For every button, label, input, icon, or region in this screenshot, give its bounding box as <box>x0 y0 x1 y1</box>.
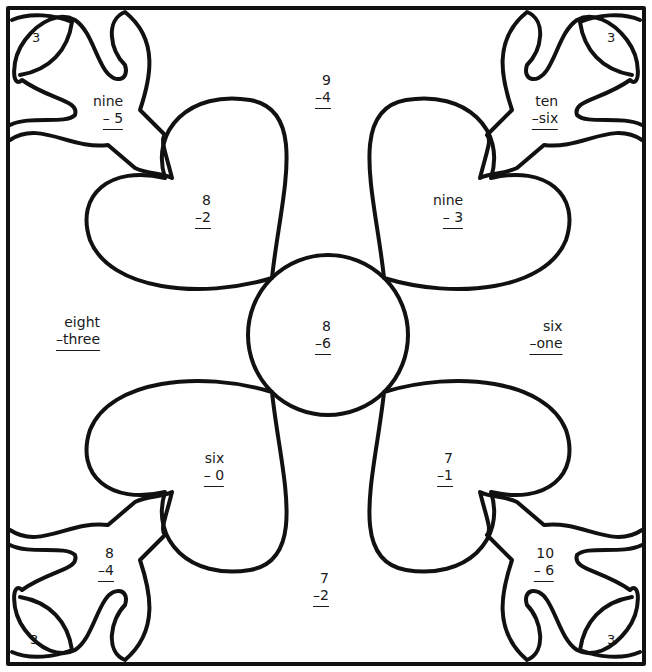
heart-bottom-left <box>87 381 287 572</box>
problem-center: 8 –6 <box>315 318 331 355</box>
problem-corner-top-left: nine – 5 <box>93 93 123 130</box>
subtrahend: –1 <box>437 467 453 487</box>
minuend: six <box>529 318 562 335</box>
minuend: 8 <box>315 318 331 335</box>
heart-bottom-right <box>369 381 569 572</box>
minuend: 8 <box>195 192 211 209</box>
corner-shape-top-right <box>480 12 642 178</box>
corner-number-top-left: 3 <box>32 30 40 45</box>
subtrahend: –one <box>529 335 562 355</box>
minuend: ten <box>532 93 558 110</box>
problem-bottom: 7 –2 <box>313 570 329 607</box>
subtrahend: – 5 <box>103 110 123 130</box>
minuend: nine <box>433 192 463 209</box>
corner-shape-bottom-right <box>480 492 642 660</box>
corner-number-bottom-right: 3 <box>607 632 615 647</box>
minuend: 10 <box>534 545 554 562</box>
subtrahend: – 0 <box>204 467 224 487</box>
problem-left: eight –three <box>56 314 100 351</box>
problem-corner-bottom-right: 10 – 6 <box>534 545 554 582</box>
corner-number-bottom-left: 3 <box>30 632 38 647</box>
problem-top: 9 –4 <box>315 72 331 109</box>
subtrahend: – 3 <box>443 209 463 229</box>
problem-right: six –one <box>529 318 562 355</box>
problem-corner-bottom-left: 8 –4 <box>98 545 114 582</box>
problem-bottom-right-heart: 7 –1 <box>437 450 453 487</box>
subtrahend: –6 <box>315 335 331 355</box>
subtrahend: –2 <box>195 209 211 229</box>
minuend: 9 <box>315 72 331 89</box>
subtrahend: –six <box>532 110 558 130</box>
minuend: 8 <box>98 545 114 562</box>
subtrahend: – 6 <box>534 562 554 582</box>
subtrahend: –three <box>56 331 100 351</box>
corner-number-top-right: 3 <box>607 30 615 45</box>
subtrahend: –4 <box>98 562 114 582</box>
color-by-number-worksheet: 3 3 3 3 9 –4 8 –2 nine – 3 8 –6 eight –t… <box>0 0 652 672</box>
minuend: eight <box>56 314 100 331</box>
minuend: 7 <box>313 570 329 587</box>
problem-top-left-heart: 8 –2 <box>195 192 211 229</box>
minuend: nine <box>93 93 123 110</box>
subtrahend: –4 <box>315 89 331 109</box>
minuend: six <box>204 450 224 467</box>
problem-corner-top-right: ten –six <box>532 93 558 130</box>
subtrahend: –2 <box>313 587 329 607</box>
problem-top-right-heart: nine – 3 <box>433 192 463 229</box>
minuend: 7 <box>437 450 453 467</box>
problem-bottom-left-heart: six – 0 <box>204 450 224 487</box>
